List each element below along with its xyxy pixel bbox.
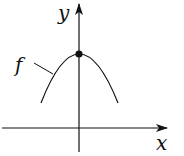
curve-label: f [13, 53, 26, 77]
function-diagram: f y x [0, 0, 184, 156]
x-axis-label: x [156, 131, 167, 155]
y-axis-label: y [57, 1, 70, 25]
vertex-point [75, 50, 82, 57]
curve-label-leader [34, 63, 53, 74]
